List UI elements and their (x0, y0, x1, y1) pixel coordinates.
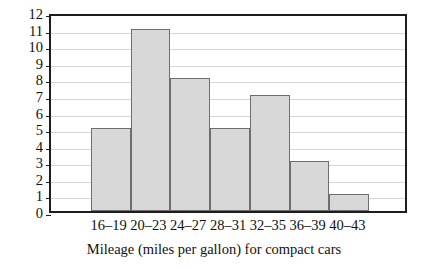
y-axis-tick-label: 9 (23, 57, 43, 72)
y-axis-tick-mark (46, 116, 51, 117)
y-axis-tick-mark (46, 165, 51, 166)
y-axis-tick-label: 8 (23, 73, 43, 88)
x-axis-tick-labels: 16–1920–2324–2728–3132–3536–3940–43 (49, 215, 407, 235)
y-axis-tick-label: 4 (23, 139, 43, 154)
x-axis-tick-label: 28–31 (210, 215, 246, 235)
y-axis-tick-mark (46, 99, 51, 100)
x-axis-tick-label: 20–23 (130, 215, 166, 235)
x-axis-tick-label: 32–35 (250, 215, 286, 235)
y-axis-title-wrapper: Frequency (2, 14, 24, 213)
histogram-bar (250, 95, 290, 211)
x-axis-tick-label: 40–43 (329, 215, 365, 235)
plot-area (49, 14, 407, 213)
y-axis-tick-label: 6 (23, 106, 43, 121)
y-axis-tick-mark (46, 198, 51, 199)
y-axis-tick-label: 1 (23, 189, 43, 204)
y-axis-tick-mark (46, 149, 51, 150)
histogram-bar (131, 29, 171, 211)
y-axis-tick-mark (46, 33, 51, 34)
y-axis-tick-mark (46, 16, 51, 17)
y-axis-tick-mark (46, 82, 51, 83)
y-axis-tick-label: 7 (23, 90, 43, 105)
histogram-bar (290, 161, 330, 211)
y-axis-tick-label: 2 (23, 173, 43, 188)
x-axis-tick-label: 24–27 (170, 215, 206, 235)
histogram-bar (210, 128, 250, 211)
x-axis-tick-label: 36–39 (289, 215, 325, 235)
x-axis-tick-label: 16–19 (91, 215, 127, 235)
x-axis-title: Mileage (miles per gallon) for compact c… (0, 239, 428, 259)
y-axis-tick-label: 12 (23, 7, 43, 22)
y-axis-tick-mark (46, 66, 51, 67)
y-axis-tick-label: 5 (23, 123, 43, 138)
y-axis-tick-label: 10 (23, 40, 43, 55)
y-axis-tick-mark (46, 132, 51, 133)
y-axis-tick-label: 11 (23, 23, 43, 38)
y-axis-tick-mark (46, 49, 51, 50)
histogram-bar (170, 78, 210, 211)
bar-series (51, 16, 405, 211)
y-axis-tick-labels: 0123456789101112 (24, 14, 46, 213)
histogram-bar (329, 194, 369, 211)
y-axis-tick-mark (46, 182, 51, 183)
y-axis-tick-label: 3 (23, 156, 43, 171)
histogram-figure: Frequency 0123456789101112 16–1920–2324–… (0, 0, 428, 269)
y-axis-tick-label: 0 (23, 206, 43, 221)
histogram-bar (91, 128, 131, 211)
